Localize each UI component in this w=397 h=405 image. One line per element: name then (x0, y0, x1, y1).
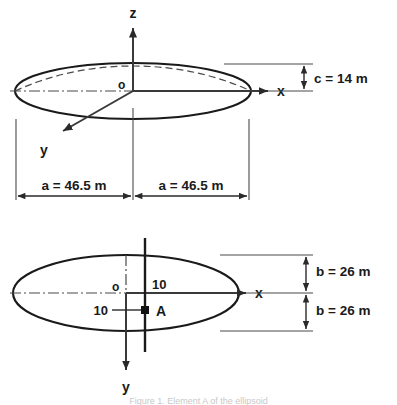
diagram-canvas: z x y o c = 14 m a = 46.5 m a = 46.5 m (0, 0, 397, 405)
origin-label-bottom: o (112, 280, 119, 294)
bottom-view-group: x y o 10 10 A b = 26 m b = 26 m (10, 238, 370, 395)
y-axis-bottom-label: y (122, 379, 130, 395)
ellipsoid-figure: z x y o c = 14 m a = 46.5 m a = 46.5 m (0, 0, 397, 405)
figure-caption: Figure 1. Element A of the ellipsoid (0, 396, 397, 405)
offset-x-label: 10 (152, 277, 166, 292)
origin-label-top: o (118, 78, 125, 92)
y-axis-top (63, 91, 133, 131)
c-dimension-label: c = 14 m (314, 71, 368, 86)
point-A-marker (141, 306, 149, 314)
z-axis-label: z (130, 5, 137, 21)
b-upper-dimension-label: b = 26 m (316, 264, 370, 279)
a-left-dimension-label: a = 46.5 m (42, 178, 107, 193)
offset-y-label: 10 (94, 303, 108, 318)
top-view-group: z x y o c = 14 m a = 46.5 m a = 46.5 m (10, 5, 368, 200)
a-right-dimension-label: a = 46.5 m (159, 178, 224, 193)
point-A-label: A (156, 303, 166, 319)
b-lower-dimension-label: b = 26 m (316, 303, 370, 318)
y-axis-top-label: y (40, 142, 48, 158)
